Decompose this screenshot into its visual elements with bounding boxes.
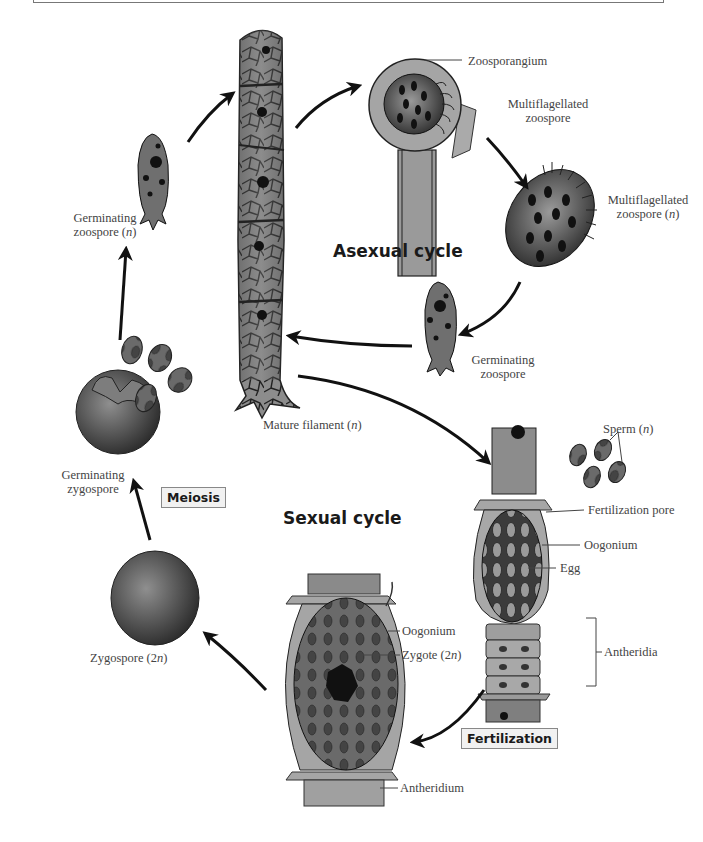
label-zygospore: Zygospore (2n) <box>90 651 167 665</box>
asexual-cycle-title: Asexual cycle <box>333 241 463 261</box>
label-germinating-zoospore: Germinating zoospore <box>458 353 548 381</box>
arrow-filament-to-zoosporangium <box>296 86 358 128</box>
label-mature-filament: Mature filament (n) <box>263 418 362 432</box>
label-germinating-zygospore: Germinating zygospore <box>48 468 138 496</box>
label-germinating-zoospore-n: Germinating zoospore (n) <box>60 211 150 239</box>
arrow-germinating-zygospore-to-zoospore <box>120 250 126 340</box>
label-oogonium-right: Oogonium <box>584 538 637 552</box>
label-zygote: Zygote (2n) <box>402 648 461 662</box>
label-oogonium-center: Oogonium <box>402 624 455 638</box>
arrow-zoospore-to-germinating <box>462 282 520 334</box>
label-egg: Egg <box>560 561 580 575</box>
label-zoosporangium: Zoosporangium <box>468 54 547 68</box>
arrow-zygote-to-zygospore <box>206 634 266 690</box>
sexual-cycle-title: Sexual cycle <box>283 508 402 528</box>
meiosis-tag: Meiosis <box>161 487 226 508</box>
label-fertilization-pore: Fertilization pore <box>588 503 674 517</box>
arrow-zoosporangium-to-zoospore <box>487 138 526 186</box>
germinating-zygospore-illustration <box>76 334 197 454</box>
label-antheridia: Antheridia <box>604 645 657 659</box>
sperm-illustration <box>567 432 629 490</box>
zygospore-illustration <box>111 551 199 645</box>
label-multiflagellated-zoospore: Multiflagellated zoospore <box>488 97 608 125</box>
arrow-germinating-to-filament <box>290 336 412 346</box>
label-sperm: Sperm (n) <box>603 422 653 436</box>
zygote-oogonium-illustration <box>285 574 405 806</box>
fertilization-tag: Fertilization <box>461 728 558 749</box>
label-antheridium: Antheridium <box>400 781 464 795</box>
fertilization-filament-illustration <box>473 425 552 722</box>
arrow-zoospore-n-to-filament <box>188 94 232 142</box>
mature-filament-illustration <box>236 30 300 418</box>
label-multiflagellated-zoospore-n: Multiflagellated zoospore (n) <box>593 193 703 221</box>
germinating-zoospore-asexual-illustration <box>425 282 457 376</box>
